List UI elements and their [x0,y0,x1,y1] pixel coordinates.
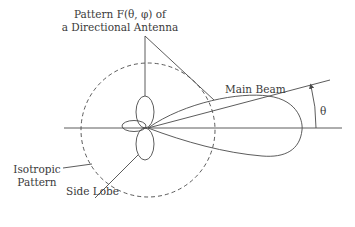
main-beam-label: Main Beam [225,83,286,96]
pattern-leader-diagonal [145,36,214,100]
side-lobe-label: Side Lobe [66,185,119,198]
isotropic-label-line2: Pattern [12,176,62,189]
main-beam-lobe [148,95,302,156]
theta-arc [311,86,316,128]
isotropic-pattern-label: Isotropic Pattern [12,163,62,189]
pattern-label-line1: Pattern F(θ, φ) of [60,8,180,21]
isotropic-pattern-circle [81,63,215,197]
pattern-label-line2: a Directional Antenna [60,21,180,34]
isotropic-label-line1: Isotropic [12,163,62,176]
back-lobe [122,121,146,132]
theta-label: θ [320,105,326,118]
lower-side-lobe [136,128,154,160]
directional-pattern-label: Pattern F(θ, φ) of a Directional Antenna [60,8,180,34]
antenna-pattern-diagram [0,0,355,227]
isotropic-leader [63,164,92,168]
